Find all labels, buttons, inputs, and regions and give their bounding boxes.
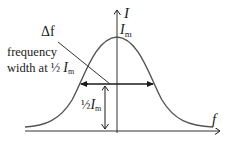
peak-label: Im bbox=[119, 22, 132, 39]
frequency-label: frequency bbox=[7, 45, 58, 59]
delta-f-label: Δf bbox=[41, 24, 55, 39]
width-at-half-label: width at ½ Im bbox=[7, 60, 75, 76]
x-axis-label: f bbox=[212, 111, 218, 127]
y-axis-label: I bbox=[123, 5, 130, 21]
half-max-label: ½Im bbox=[81, 97, 102, 113]
resonance-diagram: I f Im Δf frequency width at ½ Im ½Im bbox=[0, 0, 226, 145]
